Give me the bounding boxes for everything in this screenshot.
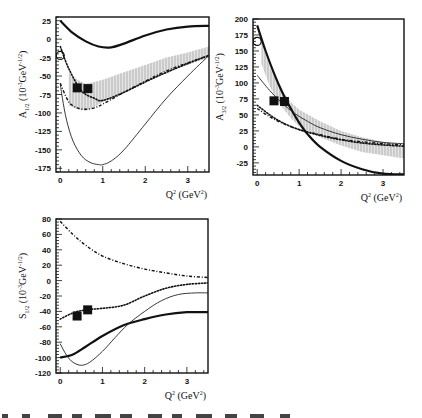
- y-tick-label: -20: [39, 292, 51, 301]
- x-tick-label: 2: [142, 377, 147, 386]
- panel-a32-helicity-amplitude: 2001751501251007550250-250123Q2 (GeV2)A3…: [214, 15, 404, 204]
- y-tick-label: 100: [235, 79, 249, 88]
- y-tick-label: -75: [39, 91, 51, 100]
- panel-a12-helicity-amplitude: 250-25-50-75-100-125-150-1750123Q2 (GeV2…: [17, 17, 209, 201]
- y-axis-title: A1/2 (10-3GeV-1/2): [17, 51, 30, 119]
- y-tick-label: -120: [35, 369, 52, 378]
- y-tick-label: -25: [39, 54, 51, 63]
- y-tick-label: 80: [42, 215, 51, 224]
- x-tick-label: 0: [58, 377, 63, 386]
- data-point-square: [269, 96, 278, 105]
- data-point-square: [73, 83, 82, 92]
- x-tick-label: 2: [143, 176, 148, 185]
- y-tick-label: 0: [244, 143, 249, 152]
- y-tick-label: 50: [239, 111, 248, 120]
- y-tick-label: 200: [235, 15, 249, 24]
- y-tick-label: 75: [239, 95, 248, 104]
- x-tick-label: 1: [100, 377, 105, 386]
- panel-s12-scalar-amplitude: 806040200-20-40-60-80-100-1200123Q2 (GeV…: [17, 215, 208, 402]
- y-tick-label: -100: [35, 109, 52, 118]
- figure-caption: Figure 6. The comparison of the ... (cap…: [0, 409, 422, 418]
- y-tick-label: 20: [42, 261, 51, 270]
- curve-dotted: [60, 283, 208, 319]
- y-tick-label: 150: [235, 47, 249, 56]
- plot-area: [60, 221, 208, 365]
- y-tick-label: 25: [239, 127, 248, 136]
- curve-thin-solid: [60, 293, 208, 365]
- data-point-square: [83, 84, 92, 93]
- y-tick-label: -25: [236, 159, 248, 168]
- data-point-square: [73, 312, 82, 321]
- y-tick-label: -125: [35, 127, 52, 136]
- figure-canvas: 250-25-50-75-100-125-150-1750123Q2 (GeV2…: [0, 0, 422, 418]
- y-tick-label: 0: [47, 277, 52, 286]
- data-point-square: [280, 97, 289, 106]
- x-axis-title: Q2 (GeV2): [166, 189, 207, 201]
- y-tick-label: 40: [42, 246, 51, 255]
- x-tick-label: 1: [297, 179, 302, 188]
- y-tick-label: -50: [39, 72, 51, 81]
- y-tick-label: -100: [35, 354, 52, 363]
- y-tick-label: -40: [39, 307, 51, 316]
- y-tick-label: -150: [35, 146, 52, 155]
- y-tick-label: 25: [42, 17, 51, 26]
- plot-area: [253, 25, 404, 174]
- curve-dash-dot: [60, 221, 208, 277]
- y-tick-label: 0: [47, 35, 52, 44]
- x-tick-label: 3: [185, 377, 190, 386]
- y-axis-title: A3/2 (10-3GeV-1/2): [214, 53, 227, 121]
- x-tick-label: 0: [58, 176, 63, 185]
- curve-thick-solid: [60, 21, 209, 48]
- x-axis-title: Q2 (GeV2): [165, 390, 206, 402]
- x-tick-label: 1: [101, 176, 106, 185]
- data-point-square: [83, 305, 92, 314]
- plot-area: [56, 21, 209, 165]
- y-axis-title: S1/2 (10-3GeV-1/2): [17, 253, 30, 319]
- x-tick-label: 3: [381, 179, 386, 188]
- x-tick-label: 0: [255, 179, 260, 188]
- x-axis-title: Q2 (GeV2): [361, 192, 402, 204]
- x-tick-label: 2: [339, 179, 344, 188]
- y-tick-label: 125: [235, 63, 249, 72]
- error-band: [69, 47, 209, 111]
- y-tick-label: -175: [35, 164, 52, 173]
- x-tick-label: 3: [186, 176, 191, 185]
- y-tick-label: 60: [42, 230, 51, 239]
- y-tick-label: 175: [235, 31, 249, 40]
- plot-frame: [56, 219, 208, 373]
- y-tick-label: -60: [39, 323, 51, 332]
- y-tick-label: -80: [39, 338, 51, 347]
